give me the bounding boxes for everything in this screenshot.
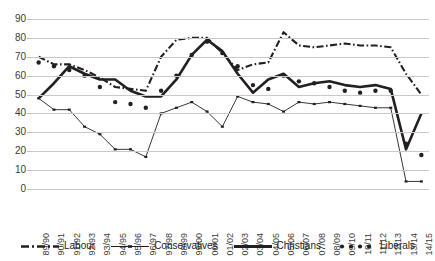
series-conservatives-marker — [405, 180, 408, 182]
gridline — [31, 57, 429, 58]
series-conservatives-marker — [328, 101, 331, 103]
series-conservatives-marker — [206, 110, 209, 112]
y-axis-tick-label: 90 — [15, 14, 26, 24]
legend-item-liberals[interactable]: Liberals — [336, 241, 415, 251]
legend-label: Christians — [277, 241, 321, 251]
series-conservatives-marker — [52, 109, 55, 111]
series-conservatives-marker — [251, 101, 254, 103]
series-conservatives-marker — [313, 103, 316, 105]
y-axis-tick-label: 30 — [15, 127, 26, 137]
series-conservatives-marker — [221, 126, 224, 128]
series-conservatives-marker — [144, 156, 147, 158]
gridline — [31, 113, 429, 114]
dotted-line-marker — [336, 242, 376, 251]
y-axis-tick-label: 50 — [15, 90, 26, 100]
gridline — [31, 189, 429, 190]
legend-label: Liberals — [380, 241, 415, 251]
series-conservatives-marker — [83, 126, 86, 128]
thin-solid-line-marker — [110, 242, 150, 251]
series-conservatives-marker — [420, 180, 423, 182]
y-axis-tick-mark — [27, 189, 31, 190]
y-axis-tick-mark — [27, 170, 31, 171]
y-axis-tick-mark — [27, 95, 31, 96]
legend-label: Conservatives — [154, 241, 217, 251]
series-conservatives-marker — [374, 107, 377, 109]
series-lines — [31, 19, 429, 189]
legend-item-christians[interactable]: Christians — [233, 241, 321, 251]
y-axis-tick-label: 10 — [15, 165, 26, 175]
legend-item-labour[interactable]: Labour — [20, 241, 95, 251]
x-axis: 89/9090/9191/9292/9393/9494/9595/9696/97… — [31, 191, 429, 235]
series-conservatives-marker — [175, 107, 178, 109]
y-axis-tick-label: 20 — [15, 146, 26, 156]
series-conservatives-marker — [68, 109, 71, 111]
y-axis-tick-label: 0 — [20, 184, 26, 194]
gridline — [31, 19, 429, 20]
y-axis-tick-label: 70 — [15, 52, 26, 62]
series-conservatives-marker — [359, 105, 362, 107]
series-conservatives-marker — [389, 107, 392, 109]
y-axis-tick-label: 60 — [15, 71, 26, 81]
y-axis: 0102030405060708090 — [0, 19, 26, 189]
gridline — [31, 132, 429, 133]
dash-dot-line-marker — [20, 242, 60, 251]
y-axis-tick-mark — [27, 151, 31, 152]
series-conservatives-marker — [129, 148, 132, 150]
gridline — [31, 38, 429, 39]
series-conservatives-marker — [114, 148, 117, 150]
y-axis-tick-mark — [27, 57, 31, 58]
series-conservatives-marker — [98, 133, 101, 135]
y-axis-tick-label: 80 — [15, 33, 26, 43]
gridline — [31, 95, 429, 96]
series-conservatives-marker — [343, 103, 346, 105]
gridline — [31, 170, 429, 171]
series-conservatives-marker — [236, 95, 239, 97]
legend-label: Labour — [64, 241, 95, 251]
series-conservatives-marker — [297, 101, 300, 103]
y-axis-tick-mark — [27, 132, 31, 133]
gridline — [31, 76, 429, 77]
thick-solid-line-marker — [233, 242, 273, 251]
plot-area — [31, 19, 429, 189]
series-conservatives-marker — [190, 101, 193, 103]
gridline — [31, 151, 429, 152]
series-conservatives-marker — [282, 110, 285, 112]
series-conservatives-marker — [267, 103, 270, 105]
y-axis-tick-mark — [27, 19, 31, 20]
y-axis-tick-mark — [27, 76, 31, 77]
y-axis-tick-mark — [27, 113, 31, 114]
chart-container: 0102030405060708090 89/9090/9191/9292/93… — [0, 0, 435, 261]
y-axis-tick-label: 40 — [15, 108, 26, 118]
legend-item-conservatives[interactable]: Conservatives — [110, 241, 217, 251]
series-conservatives-line — [39, 96, 422, 181]
y-axis-tick-mark — [27, 38, 31, 39]
chart-legend: LabourConservativesChristiansLiberals — [0, 236, 435, 256]
